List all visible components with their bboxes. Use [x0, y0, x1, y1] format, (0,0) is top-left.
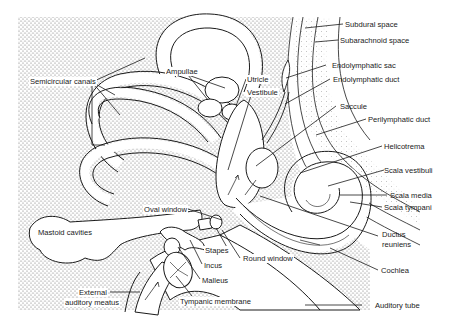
label-external-auditory-meatus-1: External	[78, 288, 108, 297]
label-scala-tympani: Scala tympani	[384, 203, 432, 212]
label-vestibule: Vestibule	[246, 88, 279, 97]
label-ductus-reuniens-2: reuniens	[382, 240, 411, 249]
label-ampullae: Ampullae	[165, 67, 199, 76]
label-helicotrema: Helicotrema	[384, 142, 425, 151]
label-cochlea: Cochlea	[381, 266, 409, 275]
saccule-body	[246, 148, 278, 188]
label-scala-media: Scala media	[390, 191, 432, 200]
label-round-window: Round window	[242, 254, 294, 263]
label-utricle: Utricle	[246, 75, 270, 84]
label-tympanic-membrane: Tympanic membrane	[179, 297, 252, 306]
label-saccule: Saccule	[340, 102, 367, 111]
label-endolymphatic-duct: Endolymphatic duct	[333, 75, 399, 84]
label-semicircular-canals: Semicircular canals	[29, 77, 97, 86]
label-subarachnoid-space: Subarachnoid space	[340, 36, 409, 45]
label-endolymphatic-sac: Endolymphatic sac	[332, 61, 396, 70]
label-incus: Incus	[203, 261, 223, 270]
label-auditory-tube: Auditory tube	[375, 301, 420, 310]
label-scala-vestibuli: Scala vestibuli	[384, 166, 433, 175]
label-malleus: Malleus	[201, 276, 229, 285]
label-subdural-space: Subdural space	[345, 20, 398, 29]
label-mastoid-cavities: Mastoid cavities	[38, 228, 92, 237]
label-stapes: Stapes	[204, 246, 230, 255]
label-external-auditory-meatus-2: auditory meatus	[64, 298, 120, 307]
label-ductus-reuniens-1: Ductus	[382, 230, 406, 239]
label-perilymphatic-duct: Perilymphatic duct	[368, 115, 430, 124]
label-oval-window: Oval window	[143, 205, 188, 214]
